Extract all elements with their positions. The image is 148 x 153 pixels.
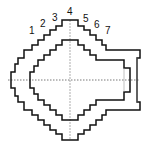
step-label-6: 6 <box>94 19 100 30</box>
step-label-7: 7 <box>105 25 111 36</box>
stepped-section-diagram: 1 2 3 4 5 6 7 <box>0 0 148 153</box>
step-label-4: 4 <box>67 6 73 17</box>
step-label-1: 1 <box>29 25 35 36</box>
step-label-3: 3 <box>52 12 58 23</box>
step-label-5: 5 <box>83 13 89 24</box>
step-label-2: 2 <box>40 18 46 29</box>
